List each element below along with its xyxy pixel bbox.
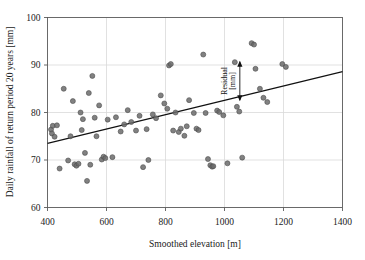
data-point <box>90 73 95 78</box>
data-point <box>68 134 73 139</box>
data-point <box>217 110 222 115</box>
x-axis-title: Smoothed elevation [m] <box>149 239 241 249</box>
data-point <box>129 120 134 125</box>
data-point <box>141 165 146 170</box>
x-tick-label: 1000 <box>215 217 234 227</box>
data-point <box>168 62 173 67</box>
data-point <box>234 104 239 109</box>
scatter-plot-figure: 400600800100012001400 60708090100 Smooth… <box>0 0 365 260</box>
data-point <box>203 110 208 115</box>
data-point <box>205 157 210 162</box>
data-point <box>82 150 87 155</box>
data-point <box>125 108 130 113</box>
data-point <box>105 117 110 122</box>
data-point <box>79 128 84 133</box>
y-tick-label: 70 <box>31 155 41 165</box>
data-point <box>57 166 62 171</box>
residual-annotation-label-unit: [mm] <box>228 72 237 90</box>
y-tick-label: 80 <box>31 108 41 118</box>
data-point <box>225 161 230 166</box>
data-point <box>134 128 139 133</box>
x-tick-label: 1200 <box>274 217 293 227</box>
data-point <box>211 164 216 169</box>
data-point <box>118 129 123 134</box>
data-point <box>201 52 206 57</box>
x-tick-label: 400 <box>40 217 55 227</box>
x-tick-label: 800 <box>158 217 173 227</box>
data-point <box>122 122 127 127</box>
x-tick-label: 1400 <box>333 217 352 227</box>
data-point <box>165 106 170 111</box>
data-point <box>103 156 108 161</box>
y-axis-title: Daily rainfall of return period 20 years… <box>5 27 15 198</box>
data-point <box>92 115 97 120</box>
data-point <box>257 86 262 91</box>
y-tick-label: 90 <box>31 60 41 70</box>
data-point <box>146 158 151 163</box>
data-point <box>76 161 81 166</box>
data-point <box>265 100 270 105</box>
data-point <box>187 98 192 103</box>
data-point <box>240 155 245 160</box>
data-point <box>144 127 149 132</box>
data-point <box>94 134 99 139</box>
data-point <box>173 110 178 115</box>
data-point <box>137 113 142 118</box>
data-point <box>253 66 258 71</box>
data-point <box>66 158 71 163</box>
data-point <box>85 178 90 183</box>
data-point <box>54 123 59 128</box>
data-point <box>182 133 187 138</box>
x-tick-label: 600 <box>99 217 114 227</box>
data-point <box>113 115 118 120</box>
data-point <box>283 64 288 69</box>
y-tick-label: 60 <box>31 203 41 213</box>
data-point <box>191 110 196 115</box>
data-point <box>162 101 167 106</box>
data-point <box>70 99 75 104</box>
data-point <box>252 42 257 47</box>
data-point <box>261 95 266 100</box>
data-point <box>178 126 183 131</box>
data-point <box>80 117 85 122</box>
data-point <box>61 86 66 91</box>
data-point <box>237 109 242 114</box>
data-point <box>221 113 226 118</box>
data-point <box>97 103 102 108</box>
y-tick-label: 100 <box>26 13 41 23</box>
data-point <box>171 128 176 133</box>
data-point <box>86 91 91 96</box>
data-point <box>196 128 201 133</box>
data-point <box>88 162 93 167</box>
data-point <box>158 93 163 98</box>
data-point <box>232 60 237 65</box>
data-point <box>78 110 83 115</box>
data-point <box>52 134 57 139</box>
data-point <box>154 116 159 121</box>
data-point <box>184 124 189 129</box>
data-point <box>110 155 115 160</box>
